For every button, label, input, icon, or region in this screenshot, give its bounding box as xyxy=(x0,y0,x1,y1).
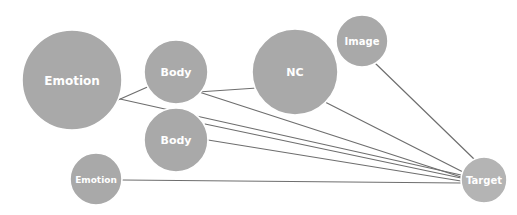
network-graph: EmotionBodyNCImageBodyEmotionTarget xyxy=(0,0,517,215)
node-label-body-lower: Body xyxy=(161,134,192,147)
node-target[interactable]: Target xyxy=(461,157,507,203)
edge-nc-target xyxy=(325,102,463,172)
node-label-emotion-small: Emotion xyxy=(75,175,117,185)
node-body-lower[interactable]: Body xyxy=(144,108,208,172)
node-image[interactable]: Image xyxy=(336,15,388,67)
edge-emotion-large-body-upper xyxy=(118,85,152,100)
node-label-body-upper: Body xyxy=(161,66,192,79)
node-emotion-large[interactable]: Emotion xyxy=(22,30,122,130)
node-nc[interactable]: NC xyxy=(252,29,338,115)
node-label-emotion-large: Emotion xyxy=(44,74,100,88)
edge-emotion-small-target xyxy=(122,180,461,183)
edge-body-lower-target-b xyxy=(208,140,461,181)
node-label-target: Target xyxy=(466,175,502,186)
edge-image-target xyxy=(375,63,474,159)
graph-canvas: EmotionBodyNCImageBodyEmotionTarget xyxy=(0,0,517,215)
node-body-upper[interactable]: Body xyxy=(144,40,208,104)
node-label-nc: NC xyxy=(286,66,303,79)
node-label-image: Image xyxy=(345,36,380,47)
node-emotion-small[interactable]: Emotion xyxy=(70,153,122,205)
edge-body-upper-nc xyxy=(198,88,257,92)
